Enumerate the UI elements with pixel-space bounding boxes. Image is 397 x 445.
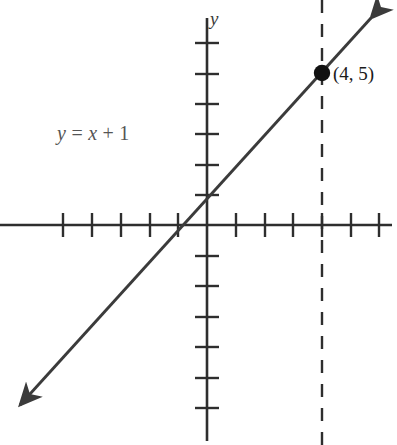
equation-constant: 1 xyxy=(119,122,130,144)
coordinate-plane-figure: y=x+1 y (4, 5) xyxy=(0,0,397,445)
y-axis xyxy=(195,18,219,441)
point-marker-4-5 xyxy=(314,65,330,81)
y-axis-label: y xyxy=(210,8,218,30)
equation-plus: + xyxy=(103,122,115,144)
equation-lhs: y xyxy=(57,122,66,144)
x-axis xyxy=(0,213,392,237)
equation-rhs-variable: x xyxy=(88,122,97,144)
equation-equals: = xyxy=(71,122,83,144)
point-coordinate-label: (4, 5) xyxy=(333,63,374,85)
equation-label: y=x+1 xyxy=(57,122,130,145)
